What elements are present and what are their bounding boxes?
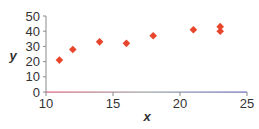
data-point-marker [56, 56, 64, 64]
data-point-marker [190, 26, 198, 34]
y-tick-label: 50 [26, 9, 40, 24]
data-point-marker [216, 27, 224, 35]
x-axis-label: x [142, 109, 151, 124]
x-tick-label: 20 [173, 96, 187, 111]
y-axis-label: y [8, 48, 17, 63]
y-tick-label: 20 [26, 54, 40, 69]
data-point-marker [69, 46, 77, 54]
scatter-chart: 01020304050 10152025 y x [0, 0, 259, 129]
data-point-marker [96, 38, 104, 46]
data-point-marker [149, 32, 157, 40]
y-axis: 01020304050 [26, 9, 46, 100]
y-tick-label: 40 [26, 24, 40, 39]
x-tick-label: 15 [106, 96, 120, 111]
data-points [56, 23, 224, 64]
y-tick-label: 30 [26, 39, 40, 54]
data-point-marker [123, 40, 131, 48]
x-tick-label: 10 [39, 96, 53, 111]
x-tick-label: 25 [240, 96, 254, 111]
chart-canvas: 01020304050 10152025 y x [0, 0, 259, 129]
y-tick-label: 10 [26, 69, 40, 84]
